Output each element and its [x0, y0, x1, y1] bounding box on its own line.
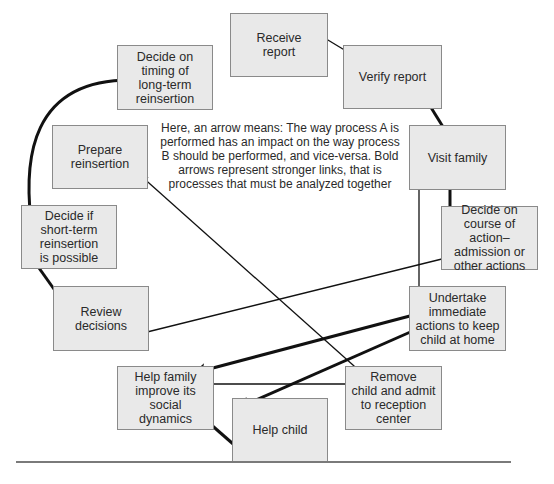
node-receive-report: Receive report — [230, 13, 328, 77]
node-verify-report: Verify report — [343, 45, 442, 109]
node-label: Decide on timing of long-term reinsertio… — [136, 50, 194, 106]
node-label: Help family improve its social dynamics — [135, 370, 197, 426]
node-label: Visit family — [428, 151, 488, 165]
node-label: Decide if short-term reinsertion is poss… — [40, 209, 98, 265]
node-decide-course: Decide on course of action– admission or… — [441, 206, 538, 270]
node-label: Undertake immediate actions to keep chil… — [415, 291, 499, 347]
edge-course-review — [135, 256, 454, 335]
node-review-decisions: Review decisions — [53, 286, 149, 351]
node-help-child: Help child — [232, 398, 328, 462]
node-label: Verify report — [359, 70, 426, 84]
edge-undertake-helpfamily — [194, 312, 425, 373]
node-label: Help child — [253, 423, 308, 437]
node-remove-child: Remove child and admit to reception cent… — [345, 366, 442, 430]
edge-prepare-remove — [140, 175, 363, 374]
node-label: Receive report — [256, 31, 301, 59]
node-help-family: Help family improve its social dynamics — [117, 366, 214, 430]
node-visit-family: Visit family — [409, 125, 506, 190]
node-decide-timing: Decide on timing of long-term reinsertio… — [117, 45, 213, 110]
node-label: Prepare reinsertion — [71, 143, 129, 171]
node-decide-short-term: Decide if short-term reinsertion is poss… — [21, 205, 117, 269]
node-label: Review decisions — [75, 305, 127, 333]
node-undertake-actions: Undertake immediate actions to keep chil… — [409, 286, 506, 351]
node-label: Remove child and admit to reception cent… — [351, 370, 435, 426]
node-label: Decide on course of action– admission or… — [446, 203, 533, 273]
bottom-divider — [16, 461, 511, 463]
node-prepare-reinsertion: Prepare reinsertion — [52, 125, 148, 189]
legend-text: Here, an arrow means: The way process A … — [160, 121, 400, 191]
